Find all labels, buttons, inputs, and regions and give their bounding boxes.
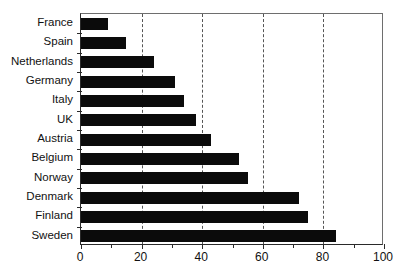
bar-norway (81, 172, 248, 184)
y-tick (77, 130, 82, 131)
bar-netherlands (81, 56, 154, 68)
bar-germany (81, 76, 175, 88)
y-tick (77, 207, 82, 208)
x-axis-label-80: 80 (316, 250, 329, 264)
bar-row (81, 72, 384, 91)
x-tick-80 (323, 244, 324, 249)
bar-row (81, 207, 384, 226)
y-tick (77, 149, 82, 150)
bar-row (81, 53, 384, 72)
y-tick (77, 53, 82, 54)
bar-finland (81, 211, 308, 223)
x-tick-100 (384, 244, 385, 249)
y-axis-label-denmark: Denmark (26, 187, 73, 206)
x-tick-60 (263, 244, 264, 249)
bar-denmark (81, 192, 299, 204)
y-tick (77, 91, 82, 92)
x-tick-minor-90 (354, 244, 355, 248)
bar-sweden (81, 230, 336, 242)
y-tick (77, 227, 82, 228)
x-axis-label-60: 60 (255, 250, 268, 264)
y-axis-label-uk: UK (57, 110, 73, 129)
y-axis-label-finland: Finland (35, 206, 73, 225)
plot-area (80, 13, 383, 245)
bar-row (81, 111, 384, 130)
x-axis-label-20: 20 (134, 250, 147, 264)
y-tick (77, 72, 82, 73)
bar-row (81, 14, 384, 33)
y-tick (77, 169, 82, 170)
y-axis-label-germany: Germany (26, 71, 73, 90)
y-axis-label-france: France (37, 13, 73, 32)
bar-row (81, 130, 384, 149)
bar-austria (81, 134, 211, 146)
y-axis-label-norway: Norway (34, 168, 73, 187)
x-axis-label-0: 0 (77, 250, 84, 264)
bar-row (81, 188, 384, 207)
bar-spain (81, 37, 126, 49)
bar-row (81, 169, 384, 188)
bar-uk (81, 114, 196, 126)
y-axis-label-austria: Austria (37, 129, 73, 148)
y-tick (77, 33, 82, 34)
bars (81, 14, 382, 244)
bar-france (81, 18, 108, 30)
bar-row (81, 91, 384, 110)
y-tick (77, 111, 82, 112)
x-axis-label-100: 100 (373, 250, 393, 264)
y-tick (77, 188, 82, 189)
y-axis-label-italy: Italy (52, 90, 73, 109)
y-axis-label-spain: Spain (44, 32, 73, 51)
bar-italy (81, 95, 184, 107)
y-axis-labels: FranceSpainNetherlandsGermanyItalyUKAust… (0, 13, 77, 245)
x-tick-minor-70 (293, 244, 294, 248)
x-tick-20 (142, 244, 143, 249)
x-axis-label-40: 40 (195, 250, 208, 264)
bar-chart: FranceSpainNetherlandsGermanyItalyUKAust… (0, 0, 407, 276)
x-tick-40 (202, 244, 203, 249)
x-tick-0 (81, 244, 82, 249)
x-tick-minor-50 (233, 244, 234, 248)
y-axis-label-netherlands: Netherlands (11, 52, 73, 71)
x-tick-minor-30 (172, 244, 173, 248)
bar-row (81, 149, 384, 168)
y-axis-label-belgium: Belgium (31, 148, 73, 167)
x-tick-minor-10 (111, 244, 112, 248)
bar-belgium (81, 153, 239, 165)
bar-row (81, 33, 384, 52)
y-axis-label-sweden: Sweden (31, 226, 73, 245)
